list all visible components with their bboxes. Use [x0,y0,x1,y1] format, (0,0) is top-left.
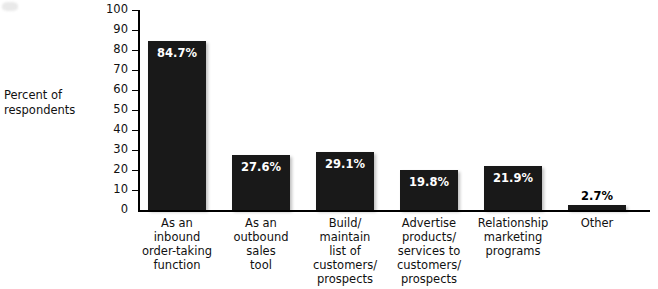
y-axis-tick-label: 40 [102,124,128,135]
y-axis-tick-mark [132,150,138,151]
bar [148,41,206,210]
bar-value-label: 29.1% [316,157,374,171]
bar [568,205,626,210]
x-axis-category-label: As an outbound sales tool [217,216,305,272]
y-axis-tick-mark [132,170,138,171]
bar-value-label: 84.7% [148,46,206,60]
x-axis-category-label: Relationship marketing programs [469,216,557,258]
bar-value-label: 21.9% [484,171,542,185]
y-axis-tick-label: 10 [102,184,128,195]
x-axis-category-label: Build/ maintain list of customers/ prosp… [301,216,389,286]
y-axis-tick-mark [132,70,138,71]
y-axis-tick-label: 80 [102,44,128,55]
x-axis-category-label: Advertise products/ services to customer… [385,216,473,286]
y-axis-tick-mark [132,110,138,111]
y-axis-tick-mark [132,130,138,131]
y-axis-tick-label: 90 [102,24,128,35]
y-axis-title: Percent of respondents [4,88,108,118]
y-axis-tick-label: 100 [102,4,128,15]
y-axis-tick-label: 60 [102,84,128,95]
x-axis-line [138,210,650,212]
y-axis-tick-mark [132,30,138,31]
bar-value-label: 27.6% [232,160,290,174]
y-axis-tick-label: 70 [102,64,128,75]
y-axis-tick-mark [132,10,138,11]
x-axis-category-label: Other [553,216,641,230]
y-axis-tick-label: 20 [102,164,128,175]
y-axis-tick-mark [132,50,138,51]
y-axis-tick-mark [132,190,138,191]
y-axis-tick-mark [132,90,138,91]
y-axis-tick-label: 30 [102,144,128,155]
y-axis-tick-label: 0 [102,204,128,215]
bar-chart: Percent of respondents 01020304050607080… [0,0,658,289]
y-axis-line [138,10,140,211]
y-axis-title-line-2: respondents [4,103,108,118]
y-axis-tick-label: 50 [102,104,128,115]
y-axis-title-line-1: Percent of [4,88,108,103]
x-axis-category-label: As an inbound order-taking function [133,216,221,272]
scan-artifact [2,2,18,11]
bar-value-label: 19.8% [400,175,458,189]
bar-value-label: 2.7% [568,189,626,203]
